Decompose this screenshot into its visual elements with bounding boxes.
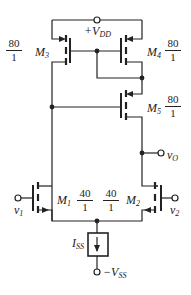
current-arrow-head: [94, 245, 100, 252]
m4-label: M4: [147, 46, 161, 60]
m2-label: M2: [126, 194, 140, 208]
m2-ratio: 401: [103, 188, 119, 213]
m4-ratio: 801: [165, 38, 181, 63]
vo-label: vO: [167, 149, 178, 163]
vdd-terminal: [94, 17, 100, 23]
v2-label: v2: [170, 204, 179, 218]
m5-label: M5: [147, 102, 161, 116]
current-source-box: [88, 233, 108, 256]
m3-ratio: 801: [6, 38, 22, 63]
node-tail: [95, 219, 100, 224]
iss-label: ISS: [72, 237, 84, 251]
node-m4-drain: [140, 76, 145, 81]
m3-label: M3: [35, 46, 49, 60]
circuit-diagram: +VDD 801 M3 M4 801 M5 801 vO M1 401 401 …: [0, 0, 191, 295]
mirror-diode-wire: [97, 51, 142, 78]
vss-terminal: [94, 269, 100, 275]
v2-terminal: [172, 195, 178, 201]
m2-source-arrow: [144, 207, 151, 213]
node-output: [140, 151, 145, 156]
node-gate: [95, 49, 100, 54]
m1-label: M1: [57, 194, 71, 208]
node-m3-drain: [50, 105, 55, 110]
vss-label: −VSS: [103, 266, 126, 280]
v1-label: v1: [14, 204, 23, 218]
v1-terminal: [15, 195, 21, 201]
circuit-schematic: [0, 0, 191, 295]
m4-source-wire: [129, 20, 142, 39]
vdd-label: +VDD: [84, 25, 111, 39]
m3-source-wire: [52, 20, 63, 39]
vo-terminal: [158, 150, 164, 156]
m1-ratio: 401: [77, 188, 93, 213]
m1-source-arrow: [42, 207, 49, 213]
m5-ratio: 801: [165, 94, 181, 119]
